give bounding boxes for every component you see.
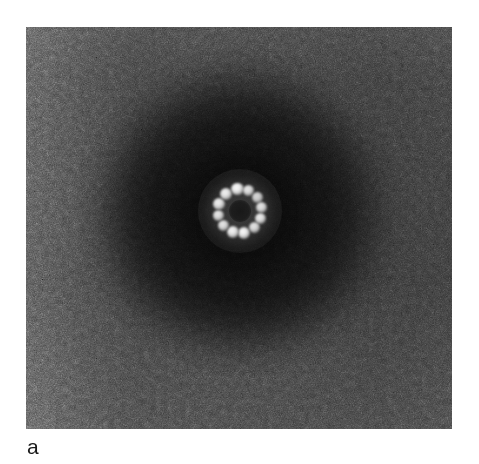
- micrograph-panel: [26, 27, 452, 429]
- panel-label: a: [27, 436, 39, 457]
- ring-subunit: [218, 220, 229, 231]
- ring-subunit: [256, 202, 267, 213]
- ring-subunit: [213, 198, 225, 210]
- particle-lumen: [229, 200, 251, 222]
- ring-subunit: [231, 183, 243, 195]
- figure-root: a: [0, 0, 479, 464]
- ring-subunit: [238, 227, 250, 239]
- ring-subunit: [220, 188, 232, 200]
